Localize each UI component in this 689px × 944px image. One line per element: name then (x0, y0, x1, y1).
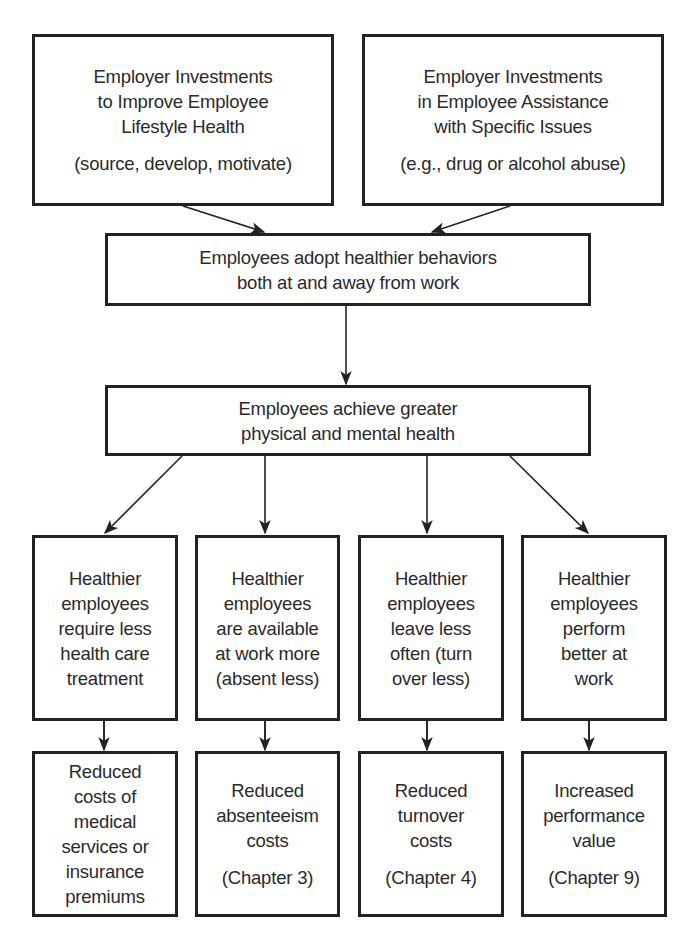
box-text: health care (60, 641, 149, 666)
box-adopt-healthier-behaviors: Employees adopt healthier behaviors both… (105, 233, 591, 306)
box-text: employees (387, 591, 475, 616)
box-text: Healthier (395, 566, 467, 591)
arrow-top-left-to-adopt (183, 206, 264, 232)
box-text: leave less (391, 616, 471, 641)
chapter-reference: (Chapter 4) (385, 865, 476, 890)
box-text: are available (216, 616, 318, 641)
box-employer-lifestyle-investments: Employer Investments to Improve Employee… (32, 34, 334, 206)
box-text: physical and mental health (241, 421, 455, 446)
box-text: employees (61, 591, 149, 616)
box-text: insurance (66, 859, 144, 884)
box-text: treatment (67, 666, 143, 691)
box-text: Employees adopt healthier behaviors (199, 245, 496, 270)
box-text: Healthier (558, 566, 630, 591)
arrow-achieve-to-outcome-1 (105, 456, 182, 533)
box-text: require less (58, 616, 151, 641)
box-text: Increased (554, 778, 633, 803)
box-text: to Improve Employee (97, 89, 268, 114)
box-text: medical (74, 809, 136, 834)
box-text: Reduced (69, 759, 142, 784)
box-text: at work more (215, 641, 320, 666)
box-text: performance (543, 803, 645, 828)
box-result-reduced-turnover: Reduced turnover costs (Chapter 4) (358, 751, 504, 917)
box-text: Employees achieve greater (238, 396, 457, 421)
chapter-reference: (Chapter 3) (222, 865, 313, 890)
box-text: Employer Investments (93, 64, 272, 89)
box-text: Healthier (69, 566, 141, 591)
box-result-increased-performance: Increased performance value (Chapter 9) (521, 751, 667, 917)
box-text: (absent less) (216, 666, 319, 691)
box-text: Reduced (395, 778, 468, 803)
arrow-top-right-to-adopt (432, 206, 510, 232)
box-result-reduced-absenteeism: Reduced absenteeism costs (Chapter 3) (195, 751, 340, 917)
box-text: services or (61, 834, 148, 859)
box-outcome-turnover-less: Healthier employees leave less often (tu… (358, 535, 504, 721)
box-outcome-perform-better: Healthier employees perform better at wo… (521, 535, 667, 721)
box-employer-assistance-investments: Employer Investments in Employee Assista… (362, 34, 664, 206)
box-achieve-greater-health: Employees achieve greater physical and m… (105, 385, 591, 456)
box-text: costs (410, 828, 452, 853)
box-text: often (turn (390, 641, 472, 666)
box-text: in Employee Assistance (418, 89, 609, 114)
box-text: better at (561, 641, 627, 666)
box-text: with Specific Issues (434, 114, 591, 139)
box-text: value (572, 828, 615, 853)
box-note: (source, develop, motivate) (74, 151, 292, 176)
box-text: over less) (392, 666, 470, 691)
box-text: Reduced (231, 778, 304, 803)
box-text: costs of (74, 784, 136, 809)
box-text: costs (246, 828, 288, 853)
box-text: Employer Investments (423, 64, 602, 89)
box-text: Healthier (231, 566, 303, 591)
box-text: Lifestyle Health (121, 114, 244, 139)
box-result-reduced-medical-costs: Reduced costs of medical services or ins… (32, 751, 178, 917)
box-text: turnover (398, 803, 464, 828)
box-outcome-less-treatment: Healthier employees require less health … (32, 535, 178, 721)
box-text: premiums (65, 884, 145, 909)
box-text: absenteeism (216, 803, 319, 828)
chapter-reference: (Chapter 9) (548, 865, 639, 890)
arrow-achieve-to-outcome-4 (510, 456, 588, 533)
box-text: perform (563, 616, 625, 641)
box-text: both at and away from work (237, 270, 459, 295)
box-text: work (575, 666, 613, 691)
box-note: (e.g., drug or alcohol abuse) (400, 151, 626, 176)
box-text: employees (550, 591, 638, 616)
box-outcome-absent-less: Healthier employees are available at wor… (195, 535, 340, 721)
box-text: employees (224, 591, 312, 616)
